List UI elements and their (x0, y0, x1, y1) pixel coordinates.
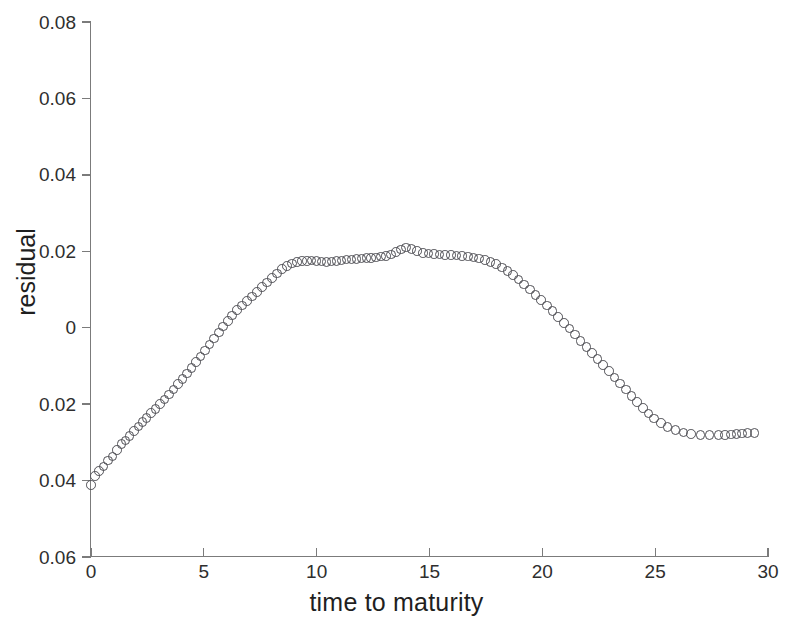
x-tick-label: 15 (400, 562, 460, 581)
y-tick-label-text: 0.02 (39, 395, 76, 414)
data-point-marker (686, 429, 696, 439)
x-tick-label: 20 (512, 562, 572, 581)
y-tick-label-text: 0.02 (39, 242, 76, 261)
y-tick-mark (82, 21, 90, 22)
y-tick-label: 0.08 (0, 13, 76, 32)
plot-area (91, 22, 768, 557)
data-point-marker (750, 428, 760, 438)
y-tick-label: 0.06 (0, 89, 76, 108)
x-tick-label: 10 (287, 562, 347, 581)
x-tick-label: 5 (174, 562, 234, 581)
y-tick-label: 0.02 (0, 395, 76, 414)
y-tick-mark (82, 174, 90, 175)
figure-canvas: 0.080.060.040.0200.020.040.06 0510152025… (0, 0, 793, 642)
y-axis-label: residual (12, 202, 40, 342)
y-tick-label-text: 0.04 (39, 165, 76, 184)
x-axis-label: time to maturity (0, 588, 793, 616)
y-tick-label-text: 0.04 (39, 471, 76, 490)
y-tick-label: 0.04 (0, 165, 76, 184)
x-tick-label: 25 (625, 562, 685, 581)
y-tick-label-text: 0.08 (39, 13, 76, 32)
x-tick-label: 0 (61, 562, 121, 581)
data-point-marker (696, 430, 706, 440)
y-tick-mark (82, 98, 90, 99)
y-tick-label-text: 0.06 (39, 89, 76, 108)
data-point-marker (86, 480, 96, 490)
y-tick-mark (82, 251, 90, 252)
y-tick-mark (82, 327, 90, 328)
y-tick-label-text: 0 (65, 318, 76, 337)
data-point-marker (705, 430, 715, 440)
y-tick-mark (82, 556, 90, 557)
x-tick-label: 30 (738, 562, 793, 581)
y-tick-mark (82, 403, 90, 404)
y-tick-label: 0.04 (0, 471, 76, 490)
